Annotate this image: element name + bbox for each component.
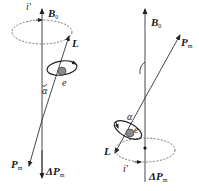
left-panel: B0 i' L e α Pm ΔPm — [11, 1, 79, 178]
precession-diagram: B0 i' L e α Pm ΔPm B0 Pm α e L i' ΔPm — [0, 0, 199, 191]
delta-pm-label: ΔPm — [148, 170, 168, 183]
orbit-direction-arrow — [116, 122, 118, 128]
alpha-label: α — [42, 85, 48, 96]
current-label: i' — [123, 163, 129, 174]
pm-label: Pm — [181, 36, 193, 49]
b0-label: B0 — [150, 16, 161, 29]
center-dot — [143, 146, 146, 149]
l-label: L — [71, 37, 79, 49]
electron-label: e — [134, 124, 139, 135]
pm-vector-arrow — [29, 120, 42, 166]
electron-icon — [58, 67, 66, 75]
current-label: i' — [26, 1, 32, 12]
delta-pm-label: ΔPm — [45, 165, 65, 178]
electron-icon — [126, 129, 134, 137]
l-label: L — [103, 145, 111, 157]
alpha-arc — [140, 62, 145, 74]
alpha-label: α — [127, 111, 133, 122]
l-vector-arrow — [115, 98, 145, 153]
right-panel: B0 Pm α e L i' ΔPm — [103, 9, 193, 183]
electron-label: e — [62, 77, 67, 88]
pm-vector-arrow — [145, 35, 180, 98]
b0-label: B0 — [47, 7, 58, 20]
pm-label: Pm — [11, 158, 23, 171]
